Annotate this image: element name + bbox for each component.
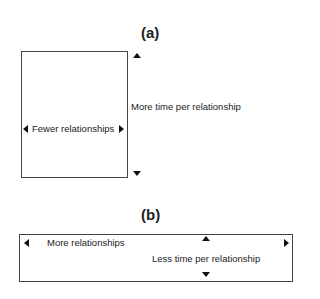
arrow-down-icon bbox=[133, 171, 141, 176]
arrow-left-icon bbox=[24, 239, 29, 247]
panel-b-vertical-label: Less time per relationship bbox=[152, 253, 260, 264]
panel-a-title: (a) bbox=[141, 24, 159, 41]
panel-a-horizontal-label: Fewer relationships bbox=[32, 123, 114, 134]
panel-b-title: (b) bbox=[141, 206, 160, 223]
arrow-right-icon bbox=[119, 125, 124, 133]
panel-a-vertical-label: More time per relationship bbox=[131, 101, 241, 112]
arrow-up-icon bbox=[202, 236, 210, 241]
panel-b-horizontal-label: More relationships bbox=[47, 237, 125, 248]
arrow-up-icon bbox=[133, 53, 141, 58]
arrow-left-icon bbox=[23, 125, 28, 133]
arrow-right-icon bbox=[284, 239, 289, 247]
arrow-down-icon bbox=[202, 272, 210, 277]
panel-a-box bbox=[21, 51, 128, 178]
